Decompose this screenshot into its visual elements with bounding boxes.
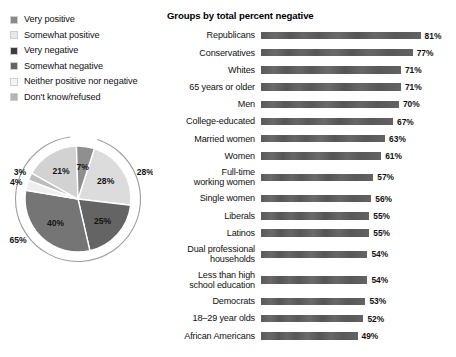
bar-row: Liberals55% xyxy=(160,207,456,224)
bar-fill xyxy=(261,212,369,219)
bar-category-label: Whites xyxy=(160,65,261,75)
bar-value-label: 71% xyxy=(405,82,422,92)
bar-track: 52% xyxy=(261,310,456,327)
bar-fill xyxy=(261,174,373,181)
bar-track: 49% xyxy=(261,327,456,344)
pie-slice-label: 40% xyxy=(47,218,65,228)
bar-track: 55% xyxy=(261,224,456,241)
bar-track: 67% xyxy=(261,113,456,130)
bar-row: College-educated67% xyxy=(160,113,456,130)
bar-track: 56% xyxy=(261,190,456,207)
bar-value-label: 67% xyxy=(397,117,414,127)
bar-fill xyxy=(261,66,401,73)
bar-category-label: Latinos xyxy=(160,228,261,238)
bar-row: Men70% xyxy=(160,96,456,113)
bar-category-label: 65 years or older xyxy=(160,82,261,92)
bar-fill xyxy=(261,276,367,283)
pie-chart-svg: 28%65% 28%25%40%4%3%21%7% xyxy=(8,128,153,273)
bar-value-label: 71% xyxy=(405,65,422,75)
legend-item: Somewhat negative xyxy=(10,59,155,74)
legend-label: Very positive xyxy=(24,14,75,25)
pie-total-label: 28% xyxy=(137,167,153,177)
bar-track: 71% xyxy=(261,79,456,96)
bar-chart-rows: Republicans81%Conservatives77%Whites71%6… xyxy=(160,27,456,344)
bar-fill xyxy=(261,32,421,39)
bar-category-label: Republicans xyxy=(160,30,261,40)
legend-item: Somewhat positive xyxy=(10,28,155,43)
bar-fill xyxy=(261,118,393,125)
bar-category-label: Full-time working women xyxy=(160,167,261,188)
bar-category-label: Conservatives xyxy=(160,48,261,58)
bar-category-label: College-educated xyxy=(160,116,261,126)
bar-fill xyxy=(261,229,369,236)
bar-track: 54% xyxy=(261,267,456,293)
pie-slice-label: 21% xyxy=(52,166,70,176)
bar-track: 53% xyxy=(261,293,456,310)
pie-slice-label: 25% xyxy=(94,216,112,226)
legend-label: Very negative xyxy=(24,45,78,56)
bar-track: 71% xyxy=(261,61,456,78)
bar-chart-title: Groups by total percent negative xyxy=(167,10,314,21)
bar-track: 54% xyxy=(261,242,456,268)
bar-fill xyxy=(261,135,385,142)
legend-item: Don't know/refused xyxy=(10,90,155,105)
bar-row: Married women63% xyxy=(160,130,456,147)
bar-row: 65 years or older71% xyxy=(160,79,456,96)
bar-fill xyxy=(261,315,363,322)
bar-row: Full-time working women57% xyxy=(160,165,456,191)
legend-item: Neither positive nor negative xyxy=(10,74,155,89)
bar-value-label: 70% xyxy=(403,99,420,109)
bar-value-label: 77% xyxy=(417,48,434,58)
bar-category-label: Dual professional households xyxy=(160,244,261,265)
bar-value-label: 63% xyxy=(389,134,406,144)
bar-row: Latinos55% xyxy=(160,224,456,241)
bar-category-label: African Americans xyxy=(160,331,261,341)
pie-legend: Very positive Somewhat positive Very neg… xyxy=(10,12,155,105)
bar-category-label: Married women xyxy=(160,134,261,144)
bar-row: Single women56% xyxy=(160,190,456,207)
bar-value-label: 55% xyxy=(373,228,390,238)
bar-row: Dual professional households54% xyxy=(160,242,456,268)
legend-swatch-somewhat-positive xyxy=(10,31,18,39)
bar-track: 63% xyxy=(261,130,456,147)
bar-value-label: 56% xyxy=(375,194,392,204)
bar-category-label: Democrats xyxy=(160,296,261,306)
bar-fill xyxy=(261,332,358,339)
pie-chart: 28%65% 28%25%40%4%3%21%7% xyxy=(8,128,153,273)
legend-swatch-very-positive xyxy=(10,16,18,24)
bar-category-label: Less than high school education xyxy=(160,270,261,291)
legend-label: Somewhat positive xyxy=(24,30,99,41)
pie-slice-label: 7% xyxy=(76,162,89,172)
bar-fill xyxy=(261,195,371,202)
bar-track: 70% xyxy=(261,96,456,113)
bar-fill xyxy=(261,101,399,108)
bar-value-label: 53% xyxy=(369,296,386,306)
bar-row: Conservatives77% xyxy=(160,44,456,61)
bar-value-label: 54% xyxy=(371,275,388,285)
legend-item: Very positive xyxy=(10,12,155,27)
bar-value-label: 55% xyxy=(373,211,390,221)
bar-row: African Americans49% xyxy=(160,327,456,344)
bar-track: 55% xyxy=(261,207,456,224)
legend-label: Neither positive nor negative xyxy=(24,76,138,87)
bar-value-label: 61% xyxy=(385,151,402,161)
bar-fill xyxy=(261,83,401,90)
bar-row: 18–29 year olds52% xyxy=(160,310,456,327)
bar-category-label: Single women xyxy=(160,193,261,203)
legend-swatch-very-negative xyxy=(10,47,18,55)
bar-value-label: 57% xyxy=(377,172,394,182)
pie-slice-label: 3% xyxy=(14,167,27,177)
legend-label: Don't know/refused xyxy=(24,92,101,103)
bar-category-label: Men xyxy=(160,99,261,109)
pie-slice-label: 28% xyxy=(97,176,115,186)
bar-fill xyxy=(261,298,365,305)
pie-total-label: 65% xyxy=(9,235,27,245)
bar-value-label: 52% xyxy=(367,314,384,324)
bar-track: 57% xyxy=(261,165,456,191)
bar-row: Whites71% xyxy=(160,61,456,78)
legend-swatch-somewhat-negative xyxy=(10,62,18,70)
bar-fill xyxy=(261,152,381,159)
legend-swatch-dont-know xyxy=(10,93,18,101)
bar-track: 61% xyxy=(261,147,456,164)
legend-swatch-neither xyxy=(10,78,18,86)
